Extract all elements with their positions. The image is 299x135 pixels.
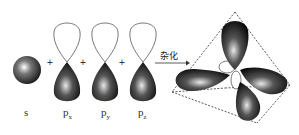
plus-sign-2: + [80,57,86,68]
px-orbital [54,23,80,101]
hybridization-diagram [0,0,299,135]
label-s: s [24,106,28,118]
plus-sign-1: + [47,57,53,68]
py-orbital [92,23,118,101]
pz-orbital [130,23,156,101]
label-pz: pz [138,106,147,121]
hybridization-label: 杂化 [160,49,178,62]
plus-sign-3: + [119,57,125,68]
label-pz-sub: z [144,113,147,121]
label-px-sub: x [69,113,73,121]
sp3-hybrid-orbitals [176,21,288,121]
label-px: px [63,106,72,121]
label-s-text: s [24,106,28,118]
s-orbital [13,56,41,84]
label-py: py [101,106,110,121]
label-py-sub: y [107,113,111,121]
